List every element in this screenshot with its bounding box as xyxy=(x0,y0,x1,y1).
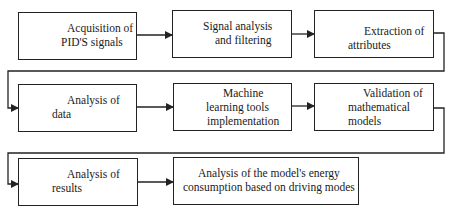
node-label-line2: learning tools xyxy=(206,100,269,114)
node-energy-consumption-analysis: Analysis of the model's energy consumpti… xyxy=(173,157,359,205)
node-label-line1: Analysis of xyxy=(67,167,120,181)
node-label-line1: Signal analysis xyxy=(203,19,272,33)
node-validation-models: Validation of mathematical models xyxy=(314,83,434,131)
node-machine-learning-tools: Machine learning tools implementation xyxy=(173,83,292,131)
node-label-line2: and filtering xyxy=(215,33,272,47)
node-label-line1: Machine xyxy=(223,86,263,100)
node-label-line2: results xyxy=(52,181,82,195)
node-signal-analysis-filtering: Signal analysis and filtering xyxy=(172,10,292,58)
node-label-line3: models xyxy=(348,114,381,128)
node-analysis-data: Analysis of data xyxy=(18,84,137,132)
node-analysis-results: Analysis of results xyxy=(18,158,138,206)
node-label-line2: consumption based on driving modes xyxy=(183,180,355,194)
node-label-line1: Extraction of xyxy=(364,24,424,38)
node-label-line1: Acquisition of xyxy=(67,21,133,35)
node-label-line2: attributes xyxy=(348,38,391,52)
node-acquisition-pid-signals: Acquisition of PID'S signals xyxy=(18,12,137,60)
node-label-line3: implementation xyxy=(207,114,279,128)
node-label-line2: PID'S signals xyxy=(61,35,123,49)
node-extraction-attributes: Extraction of attributes xyxy=(314,10,434,58)
node-label-line1: Analysis of xyxy=(67,93,120,107)
node-label-line2: data xyxy=(52,107,71,121)
node-label-line1: Validation of xyxy=(363,86,423,100)
node-label-line2: mathematical xyxy=(348,100,410,114)
node-label-line1: Analysis of the model's energy xyxy=(198,166,340,180)
